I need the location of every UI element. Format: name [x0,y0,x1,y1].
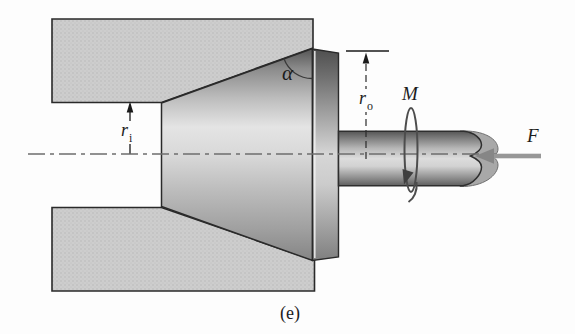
outer-radius-subscript: o [367,99,373,113]
cone-clutch-drawing [0,0,575,334]
force-label: F [527,126,539,145]
force-arrow-stem [494,154,542,159]
figure-caption: (e) [280,304,300,322]
inner-radius-label: ri [119,121,134,144]
alpha-label: α [282,63,293,84]
outer-radius-label: ro [356,89,376,112]
inner-radius-subscript: i [129,131,132,145]
figure-cone-clutch: α ri ro M F (e) [0,0,575,334]
outer-radius-symbol: r [359,88,366,108]
inner-radius-symbol: r [121,120,128,140]
moment-label: M [402,84,418,103]
outer-radius-arrowhead-icon [363,53,370,64]
shaft [339,131,482,185]
